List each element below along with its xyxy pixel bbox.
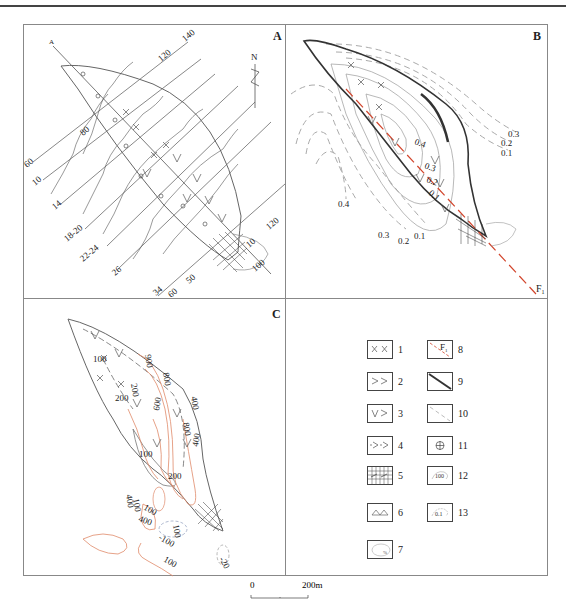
svg-text:900: 900 xyxy=(143,354,155,370)
legend-item-10: 10 xyxy=(427,404,468,423)
legend-item-3: 3 xyxy=(367,404,403,423)
svg-text:400: 400 xyxy=(190,432,202,448)
svg-text:140: 140 xyxy=(180,27,197,44)
legend-swatch-gt-gt xyxy=(367,372,393,391)
legend-item-8: F1 8 xyxy=(427,340,463,359)
legend-item-7: % 7 xyxy=(367,540,403,559)
legend-swatch-contour-0.1: 0.1 xyxy=(427,503,453,522)
legend-swatch-mountain xyxy=(367,503,393,522)
svg-text:200: 200 xyxy=(129,383,141,399)
legend-item-2: 2 xyxy=(367,372,403,391)
legend-swatch-ellipse-percent: % xyxy=(367,540,393,559)
svg-text:0.3: 0.3 xyxy=(378,230,390,240)
legend-swatch-x-x xyxy=(367,340,393,359)
svg-text:F1: F1 xyxy=(440,342,448,353)
svg-text:34: 34 xyxy=(151,284,165,298)
svg-text:0.1: 0.1 xyxy=(414,231,425,241)
svg-text:100: 100 xyxy=(435,473,444,479)
fault-label: F1 xyxy=(536,283,545,295)
svg-text:0.2: 0.2 xyxy=(425,174,439,187)
svg-text:0.4: 0.4 xyxy=(413,136,427,149)
legend-item-6: 6 xyxy=(367,503,403,522)
legend-swatch-dash-gt xyxy=(367,436,393,455)
svg-text:-20: -20 xyxy=(217,555,232,571)
svg-text:%: % xyxy=(383,550,387,555)
top-rule xyxy=(0,5,566,7)
svg-text:0.2: 0.2 xyxy=(398,236,409,246)
svg-text:0.4: 0.4 xyxy=(338,199,350,209)
legend-swatch-dashed-line xyxy=(427,404,453,423)
legend-swatch-v-gt xyxy=(367,404,393,423)
svg-text:60: 60 xyxy=(22,156,36,170)
svg-text:400: 400 xyxy=(189,396,201,412)
svg-text:200: 200 xyxy=(168,471,182,481)
panel-c-map: 100 200 200 900 800 600 800 400 100 200 … xyxy=(23,299,285,576)
svg-text:22-24: 22-24 xyxy=(78,242,101,263)
svg-text:18-20: 18-20 xyxy=(62,222,85,243)
north-label: N xyxy=(251,52,258,62)
svg-text:400: 400 xyxy=(124,494,136,510)
svg-text:100: 100 xyxy=(139,449,153,459)
svg-text:0.1: 0.1 xyxy=(435,511,443,517)
svg-text:0.1: 0.1 xyxy=(501,148,512,158)
legend-item-13: 0.1 13 xyxy=(427,503,468,522)
panel-a-map: N A 140 120 80 60 10 14 18-20 22-24 26 3… xyxy=(23,24,285,298)
legend-item-4: 4 xyxy=(367,436,403,455)
svg-text:60: 60 xyxy=(166,286,180,300)
svg-text:200: 200 xyxy=(115,393,129,403)
svg-text:0.2: 0.2 xyxy=(501,138,512,148)
svg-text:120: 120 xyxy=(264,215,281,232)
legend-swatch-contour-100: 100 xyxy=(427,466,453,485)
svg-text:14: 14 xyxy=(50,198,64,212)
legend-swatch-grid-hatch xyxy=(367,466,393,485)
legend-swatch-circle-cross xyxy=(427,436,453,455)
scale-bar: 0 200m xyxy=(250,580,330,602)
legend-item-9: 9 xyxy=(427,372,463,391)
svg-text:50: 50 xyxy=(184,272,198,286)
svg-text:600: 600 xyxy=(151,396,163,412)
legend-item-1: 1 xyxy=(367,340,403,359)
svg-text:800: 800 xyxy=(161,372,173,388)
legend-swatch-fault-F1: F1 xyxy=(427,340,453,359)
svg-text:100: 100 xyxy=(93,354,107,364)
legend-item-11: 11 xyxy=(427,436,468,455)
legend-item-12: 100 12 xyxy=(427,466,468,485)
svg-text:100: 100 xyxy=(162,554,179,570)
panel-b-map: 0.3 0.2 0.1 0.4 0.3 0.2 0.1 0.4 0.3 0.2 … xyxy=(286,24,548,298)
svg-text:120: 120 xyxy=(156,47,173,64)
svg-text:10: 10 xyxy=(30,174,44,188)
profile-marker: A xyxy=(49,38,54,46)
legend-swatch-double-line xyxy=(427,372,453,391)
legend-item-5: 5 xyxy=(367,466,403,485)
